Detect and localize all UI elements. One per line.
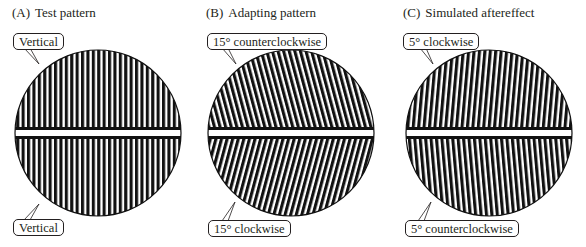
panel-a-bottom-callout: Vertical [13, 219, 64, 236]
panel-b-bottom-callout: 15° clockwise [208, 220, 291, 237]
panel-a-bottom-pointer [24, 204, 39, 220]
panel-c-bottom-grating [406, 133, 572, 217]
panel-b-divider-bar [208, 130, 374, 136]
panel-c-divider-bar [406, 130, 572, 136]
panel-c-bottom-pointer [418, 202, 431, 221]
panel-b-bottom-pointer [222, 202, 235, 221]
panel-a-bottom-grating [15, 133, 181, 217]
panel-c-top-grating [406, 50, 572, 133]
panel-b-top-callout: 15° counterclockwise [207, 33, 327, 50]
panel-a-top-grating [15, 50, 181, 133]
panel-a-divider-bar [15, 130, 181, 136]
panel-b-top-grating [208, 50, 374, 133]
panel-a-top-callout: Vertical [13, 33, 64, 50]
panel-c-bottom-callout: 5° counterclockwise [405, 220, 519, 237]
panel-c-top-callout: 5° clockwise [403, 33, 479, 50]
